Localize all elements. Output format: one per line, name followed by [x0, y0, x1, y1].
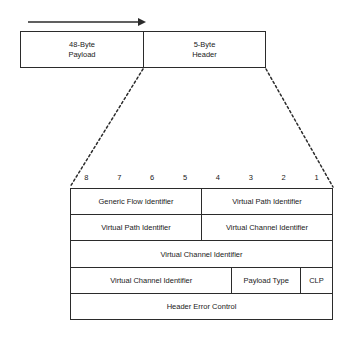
- header-row: Generic Flow Identifier Virtual Path Ide…: [71, 189, 332, 215]
- header-row: Virtual Channel Identifier: [71, 241, 332, 267]
- field-cell: Virtual Path Identifier: [71, 215, 202, 240]
- header-row: Header Error Control: [71, 294, 332, 319]
- field-cell: Virtual Channel Identifier: [202, 215, 332, 240]
- field-cell: Virtual Path Identifier: [202, 189, 332, 214]
- cell-segment-payload: 48-Byte Payload: [20, 31, 143, 68]
- bit-label-3: 3: [234, 171, 267, 185]
- header-label-line2: Header: [192, 50, 217, 59]
- field-cell: Virtual Channel Identifier: [71, 268, 232, 293]
- header-field-table: Generic Flow Identifier Virtual Path Ide…: [70, 188, 333, 320]
- bit-label-1: 1: [300, 171, 333, 185]
- bit-label-5: 5: [169, 171, 202, 185]
- bit-label-2: 2: [267, 171, 300, 185]
- header-row: Virtual Path Identifier Virtual Channel …: [71, 215, 332, 241]
- cell-segment-header: 5-Byte Header: [143, 31, 266, 68]
- connector-right: [266, 69, 333, 187]
- field-cell: CLP: [301, 268, 332, 293]
- field-cell: Payload Type: [232, 268, 300, 293]
- payload-label-line2: Payload: [68, 50, 95, 59]
- bit-ruler: 8 7 6 5 4 3 2 1: [70, 171, 333, 185]
- field-cell: Header Error Control: [71, 294, 332, 319]
- atm-cell-diagram: 48-Byte Payload 5-Byte Header 8 7 6 5 4 …: [0, 0, 352, 345]
- field-cell: Generic Flow Identifier: [71, 189, 202, 214]
- bit-label-6: 6: [136, 171, 169, 185]
- bit-label-7: 7: [103, 171, 136, 185]
- connector-left: [70, 69, 143, 187]
- bit-label-8: 8: [70, 171, 103, 185]
- payload-label-line1: 48-Byte: [68, 40, 95, 49]
- header-row: Virtual Channel Identifier Payload Type …: [71, 268, 332, 294]
- header-label-line1: 5-Byte: [192, 40, 217, 49]
- bit-label-4: 4: [202, 171, 235, 185]
- transmission-direction-arrow: [28, 16, 146, 28]
- field-cell: Virtual Channel Identifier: [71, 241, 332, 266]
